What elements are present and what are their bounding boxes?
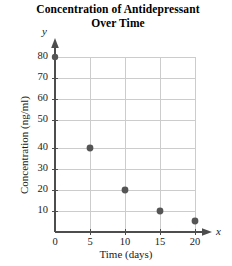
gridlines-vertical: [90, 57, 195, 232]
x-axis: [55, 228, 212, 236]
plot-area: [0, 0, 232, 266]
x-axis-label: Time (days): [46, 248, 206, 260]
y-axis-label: Concentration (ng/ml): [18, 65, 30, 225]
origin-label: 0: [43, 236, 67, 247]
y-axis-letter: y: [42, 25, 47, 37]
data-point: [52, 54, 58, 60]
data-point: [192, 218, 199, 225]
x-tick-label-20: 20: [183, 236, 207, 247]
x-tick-label-5: 5: [78, 236, 102, 247]
y-tick-label-80: 80: [26, 50, 48, 61]
data-point: [157, 208, 164, 215]
data-point: [122, 187, 129, 194]
y-axis-arrowhead: [51, 38, 59, 48]
y-axis: [51, 38, 59, 232]
x-axis-arrowhead: [202, 228, 212, 236]
x-tick-label-15: 15: [148, 236, 172, 247]
chart-figure: Concentration of Antidepressant Over Tim…: [0, 0, 232, 266]
data-point: [87, 145, 94, 152]
x-axis-letter: x: [216, 225, 221, 237]
x-tick-label-10: 10: [113, 236, 137, 247]
